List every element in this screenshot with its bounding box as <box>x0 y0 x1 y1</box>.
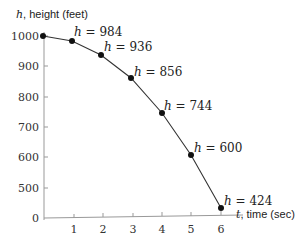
annotation-600: h = 600 <box>194 141 242 155</box>
annotation-744: h = 744 <box>164 99 213 113</box>
x-tick-2: 2 <box>100 223 107 236</box>
annotation-856: h = 856 <box>134 65 182 79</box>
data-points <box>40 33 224 211</box>
annotation-984: h = 984 <box>74 25 123 39</box>
height-series-line <box>43 36 221 208</box>
x-tick-6: 6 <box>218 223 225 236</box>
y-axis-label: h, height (feet) <box>16 8 88 21</box>
y-tick-500: 500 <box>18 182 39 195</box>
x-tick-3: 3 <box>130 223 137 236</box>
annotation-424: h = 424 <box>224 194 273 208</box>
annotation-936: h = 936 <box>104 40 152 54</box>
y-tick-600: 600 <box>18 151 39 164</box>
y-tick-800: 800 <box>18 91 39 104</box>
height-time-chart: 1000 900 800 700 600 500 0 1 2 3 4 5 6 h… <box>0 0 297 243</box>
y-tick-900: 900 <box>18 60 39 73</box>
y-tick-1000: 1000 <box>11 30 39 43</box>
y-ticks <box>44 36 48 188</box>
y-tick-700: 700 <box>18 121 39 134</box>
point-t0 <box>40 33 46 39</box>
x-tick-4: 4 <box>159 223 166 236</box>
x-tick-1: 1 <box>71 223 78 236</box>
x-tick-5: 5 <box>188 223 195 236</box>
y-tick-0: 0 <box>32 212 39 225</box>
x-axis-label: t, time (sec) <box>236 208 295 221</box>
